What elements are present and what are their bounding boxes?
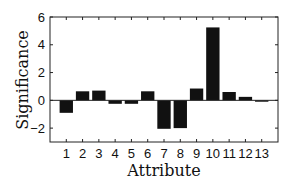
x-tick-label: 13 <box>254 146 268 161</box>
x-tick-label: 1 <box>63 146 70 161</box>
bar-attribute-8 <box>174 100 187 128</box>
bar-attribute-7 <box>157 100 170 128</box>
bars <box>60 27 269 128</box>
bar-attribute-1 <box>60 100 73 113</box>
x-tick-label: 11 <box>222 146 236 161</box>
y-tick-label: 4 <box>38 37 45 52</box>
bar-attribute-2 <box>76 91 89 100</box>
x-tick-label: 10 <box>206 146 220 161</box>
bar-attribute-10 <box>206 27 219 100</box>
x-tick-label: 4 <box>112 146 119 161</box>
x-axis-title: Attribute <box>126 161 200 180</box>
bar-attribute-3 <box>92 91 105 101</box>
bar-chart: −20246 12345678910111213 Attribute Signi… <box>0 0 294 186</box>
x-tick-label: 8 <box>177 146 184 161</box>
y-tick-label: 6 <box>38 10 45 25</box>
bar-attribute-11 <box>222 92 235 100</box>
x-tick-label: 12 <box>238 146 252 161</box>
bar-attribute-9 <box>190 89 203 101</box>
bar-attribute-12 <box>239 97 252 100</box>
y-tick-label: 0 <box>38 93 45 108</box>
x-tick-label: 9 <box>193 146 200 161</box>
y-axis-title: Significance <box>13 30 32 130</box>
x-tick-label: 5 <box>128 146 135 161</box>
y-axis-ticks: −20246 <box>30 10 278 136</box>
x-tick-label: 2 <box>79 146 86 161</box>
bar-attribute-6 <box>141 91 154 100</box>
y-tick-label: 2 <box>38 65 45 80</box>
bar-attribute-4 <box>108 100 121 103</box>
x-axis-ticks: 12345678910111213 <box>63 17 269 161</box>
x-tick-label: 3 <box>95 146 102 161</box>
y-tick-label: −2 <box>30 121 45 136</box>
x-tick-label: 7 <box>160 146 167 161</box>
x-tick-label: 6 <box>144 146 151 161</box>
bar-attribute-5 <box>125 100 138 103</box>
